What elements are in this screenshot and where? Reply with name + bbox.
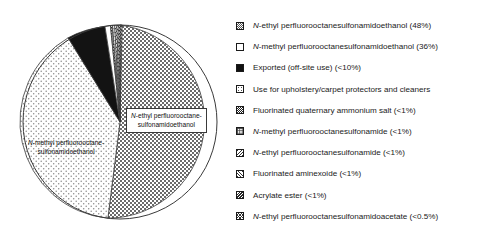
- legend-item-label: Use for upholstery/carpet protectors and…: [253, 83, 430, 95]
- legend-item-label: N-methyl perfluorooctanesulfonamide (<1%…: [253, 125, 412, 137]
- legend-item[interactable]: N-methyl perfluorooctanesulfonamide (<1%…: [236, 125, 487, 146]
- legend-label-text: Exported (off-site use) (<10%): [253, 63, 361, 72]
- legend-item-label: N-ethyl perfluorooctanesulfonamidoethano…: [253, 19, 431, 31]
- pie-slice-label-n-ethyl-pfose: N-ethyl perfluorooctane- sulfonamidoetha…: [126, 108, 207, 133]
- legend-label-text: Use for upholstery/carpet protectors and…: [253, 85, 430, 94]
- label-line-1: -methyl perfluorooctane-: [33, 139, 104, 146]
- legend-item[interactable]: Fluorinated quaternary ammonium salt (<1…: [236, 104, 487, 125]
- legend-label-text: -ethyl perfluorooctanesulfonamidoacetate…: [259, 212, 438, 221]
- legend-label-text: -methyl perfluorooctanesulfonamidoethano…: [259, 42, 438, 51]
- legend-item-label: N-ethyl perfluorooctanesulfonamide (<1%): [253, 146, 405, 158]
- legend-item-label: Acrylate ester (<1%): [253, 189, 327, 201]
- legend-swatch-icon: [236, 170, 244, 178]
- legend-label-text: -methyl perfluorooctanesulfonamide (<1%): [259, 127, 412, 136]
- legend-label-text: Fluorinated quaternary ammonium salt (<1…: [253, 106, 416, 115]
- legend-label-text: -ethyl perfluorooctanesulfonamidoethanol…: [259, 21, 431, 30]
- legend-item[interactable]: Fluorinated aminexoide (<1%): [236, 167, 487, 188]
- legend-swatch-icon: [236, 85, 244, 93]
- legend-swatch-icon: [236, 127, 244, 135]
- legend-item[interactable]: Exported (off-site use) (<10%): [236, 61, 487, 82]
- legend-item[interactable]: Acrylate ester (<1%): [236, 189, 487, 210]
- legend-item-label: Exported (off-site use) (<10%): [253, 61, 361, 73]
- legend-swatch-icon: [236, 149, 244, 157]
- legend-swatch-icon: [236, 64, 244, 72]
- legend-swatch-icon: [236, 106, 244, 114]
- legend-label-text: Fluorinated aminexoide (<1%): [253, 169, 361, 178]
- legend-label-text: -ethyl perfluorooctanesulfonamide (<1%): [259, 148, 405, 157]
- legend-item[interactable]: N-ethyl perfluorooctanesulfonamidoethano…: [236, 19, 487, 40]
- legend-item-label: Fluorinated quaternary ammonium salt (<1…: [253, 104, 416, 116]
- legend-item[interactable]: N-ethyl perfluorooctanesulfonamide (<1%): [236, 146, 487, 167]
- label-line-2: sulfonamidoethanol: [28, 147, 104, 156]
- label-line-2: sulfonamidoethanol: [131, 120, 202, 129]
- legend-item[interactable]: N-methyl perfluorooctanesulfonamidoethan…: [236, 40, 487, 61]
- legend-item-label: N-ethyl perfluorooctanesulfonamidoacetat…: [253, 210, 438, 222]
- pie-slice-label-n-methyl-pfose: N-methyl perfluorooctane- sulfonamidoeth…: [26, 137, 106, 157]
- legend-item[interactable]: N-ethyl perfluorooctanesulfonamidoacetat…: [236, 210, 487, 231]
- legend-label-text: Acrylate ester (<1%): [253, 191, 327, 200]
- legend-item[interactable]: Use for upholstery/carpet protectors and…: [236, 83, 487, 104]
- pie-chart-figure: N-ethyl perfluorooctane- sulfonamidoetha…: [0, 0, 487, 242]
- pie-chart-area: N-ethyl perfluorooctane- sulfonamidoetha…: [0, 0, 240, 242]
- legend-item-label: Fluorinated aminexoide (<1%): [253, 167, 361, 179]
- legend-swatch-icon: [236, 43, 244, 51]
- legend-swatch-icon: [236, 212, 244, 220]
- legend-swatch-icon: [236, 191, 244, 199]
- chart-legend: N-ethyl perfluorooctanesulfonamidoethano…: [236, 19, 487, 231]
- label-line-1: -ethyl perfluorooctane-: [136, 112, 202, 119]
- legend-item-label: N-methyl perfluorooctanesulfonamidoethan…: [253, 40, 438, 52]
- legend-swatch-icon: [236, 22, 244, 30]
